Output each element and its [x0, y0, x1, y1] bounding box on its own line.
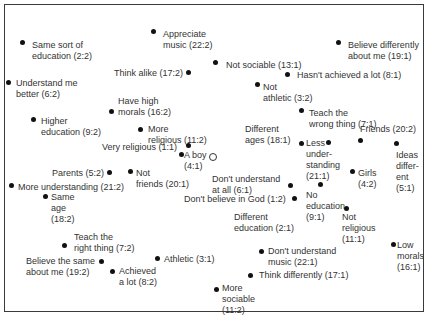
point-dot — [344, 206, 349, 211]
point-label: Ideas differ- ent (5:1) — [396, 150, 419, 194]
point-label: Hasn't achieved a lot (8:1) — [297, 70, 401, 81]
point-dot — [336, 40, 341, 45]
point-dot — [109, 109, 114, 114]
point-dot — [99, 259, 104, 264]
point-dot — [110, 269, 115, 274]
point-label: More sociable (11:2) — [222, 283, 255, 316]
point-label: Low morals (16:1) — [397, 240, 424, 273]
point-label: Have high morals (16:2) — [118, 96, 171, 118]
point-label: Not sociable (13:1) — [226, 60, 302, 71]
point-dot — [138, 127, 143, 132]
point-label: Same sort of education (2:2) — [32, 40, 92, 62]
point-dot — [299, 141, 304, 146]
point-label: Don't believe in God (1:2) — [184, 194, 286, 205]
point-label: Don't understand music (22:1) — [268, 246, 336, 268]
point-dot — [62, 243, 67, 248]
point-dot — [179, 152, 184, 157]
point-label: Very religious (1:1) — [102, 142, 177, 153]
point-label: Believe the same about me (19:2) — [26, 256, 95, 278]
point-label: Girls (4:2) — [358, 168, 377, 190]
point-label: Different ages (18:1) — [245, 124, 291, 146]
point-label: Don't understand at all (6:1) — [212, 174, 280, 196]
point-label: Same age (18:2) — [51, 192, 75, 225]
point-dot — [391, 242, 396, 247]
point-label: Higher education (9:2) — [41, 116, 101, 138]
point-label: Different education (2:1) — [234, 212, 294, 234]
point-dot — [186, 143, 191, 148]
point-dot — [248, 273, 253, 278]
point-label: Not friends (20:1) — [136, 168, 189, 190]
point-dot — [255, 82, 260, 87]
point-dot — [128, 169, 133, 174]
point-dot — [285, 72, 290, 77]
point-label: Parents (5:2) — [52, 168, 104, 179]
point-dot — [186, 70, 191, 75]
point-dot — [358, 138, 363, 143]
point-label: Think differently (17:1) — [259, 270, 348, 281]
point-dot — [394, 141, 399, 146]
point-label: Friends (20:2) — [360, 124, 416, 135]
point-dot — [31, 117, 36, 122]
point-dot — [292, 196, 297, 201]
point-dot — [6, 80, 11, 85]
point-label: Not religious (11:1) — [342, 212, 376, 245]
point-label: No education (9:1) — [306, 190, 345, 223]
point-label: Achieved a lot (8:2) — [119, 266, 157, 288]
point-label: Athletic (3:1) — [164, 254, 215, 265]
point-dot — [299, 108, 304, 113]
point-dot — [259, 249, 264, 254]
point-dot — [326, 140, 331, 145]
point-dot — [350, 169, 355, 174]
point-dot — [9, 183, 14, 188]
point-dot — [20, 40, 25, 45]
point-dot — [151, 29, 156, 34]
point-dot — [214, 287, 219, 292]
point-dot — [288, 183, 293, 188]
point-label: Appreciate music (22:2) — [163, 29, 213, 51]
point-label: Think alike (17:2) — [114, 68, 183, 79]
point-label: Understand me better (6:2) — [16, 78, 78, 100]
point-label: Less under- standing (21:1) — [306, 138, 340, 182]
point-label: Believe differently about me (19:1) — [348, 40, 419, 62]
point-label: Teach the right thing (7:2) — [74, 232, 135, 254]
point-dot — [155, 256, 160, 261]
point-dot — [318, 182, 323, 187]
point-dot — [107, 170, 112, 175]
point-dot — [43, 194, 48, 199]
origin-marker — [209, 153, 217, 161]
point-dot — [213, 60, 218, 65]
point-label: Not athletic (3:2) — [263, 82, 313, 104]
